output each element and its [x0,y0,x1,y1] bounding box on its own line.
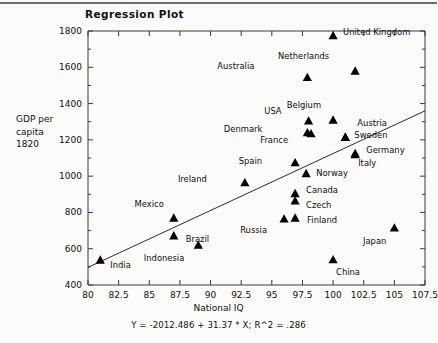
data-point-label: Australia [217,61,254,71]
y-axis-tick-label: 1200 [59,135,82,145]
data-point-label: Norway [316,168,348,178]
data-point-label: Mexico [135,199,164,209]
data-point-marker[interactable] [96,255,105,263]
x-axis-tick-label: 107.5 [412,290,438,300]
data-point-label: Germany [366,145,405,155]
data-point-label: Sweden [354,130,387,140]
x-axis-tick-label: 92.5 [231,290,251,300]
x-axis-tick-label: 102.5 [351,290,377,300]
data-point-label: France [260,135,288,145]
x-axis-tick-label: 87.5 [170,290,190,300]
x-axis-tick-label: 95 [266,290,277,300]
data-point-label: Spain [239,156,262,166]
data-point-marker[interactable] [341,133,350,141]
data-point-label: Japan [363,236,386,246]
data-point-marker[interactable] [291,213,300,221]
data-point-marker[interactable] [304,116,313,124]
data-point-marker[interactable] [328,255,337,263]
data-point-label: Canada [306,185,338,195]
x-axis-tick-label: 97.5 [292,290,312,300]
data-point-label: Russia [240,225,267,235]
x-axis-tick-label: 105 [386,290,403,300]
data-point-marker[interactable] [291,196,300,204]
data-point-label: Austria [357,118,387,128]
data-point-label: Finland [307,215,337,225]
y-axis-tick-label: 1600 [59,62,82,72]
data-point-label: USA [264,106,281,116]
data-point-marker[interactable] [169,213,178,221]
data-point-marker[interactable] [279,214,288,222]
data-point-label: Ireland [178,174,207,184]
data-point-marker[interactable] [303,73,312,81]
y-axis-tick-label: 1000 [59,171,82,181]
data-point-marker[interactable] [390,223,399,231]
y-axis-tick-label: 800 [65,207,82,217]
x-axis-tick-label: 80 [82,290,93,300]
data-point-marker[interactable] [328,31,337,39]
x-axis-tick-label: 90 [205,290,216,300]
data-point-marker[interactable] [240,178,249,186]
data-point-label: Czech [306,200,331,210]
data-point-label: Netherlands [278,51,329,61]
y-axis-tick-label: 1800 [59,26,82,36]
data-point-label: China [336,267,360,277]
data-point-marker[interactable] [351,150,360,158]
data-point-label: India [110,260,131,270]
x-axis-tick-label: 82.5 [109,290,129,300]
data-point-marker[interactable] [328,115,337,123]
y-axis-tick-label: 600 [65,244,82,254]
y-axis-tick-label: 400 [65,280,82,290]
data-point-marker[interactable] [291,158,300,166]
data-point-label: Brazil [186,234,209,244]
x-axis-tick-label: 85 [144,290,155,300]
x-axis-tick-label: 100 [324,290,341,300]
data-point-label: United Kingdom [343,27,410,37]
data-point-marker[interactable] [302,169,311,177]
data-point-label: Indonesia [144,253,185,263]
data-point-marker[interactable] [169,231,178,239]
data-point-marker[interactable] [351,66,360,74]
data-point-marker[interactable] [291,189,300,197]
data-point-label: Denmark [224,124,263,134]
y-axis-tick-label: 1400 [59,99,82,109]
data-point-label: Belgium [287,100,321,110]
data-point-label: Italy [358,158,376,168]
